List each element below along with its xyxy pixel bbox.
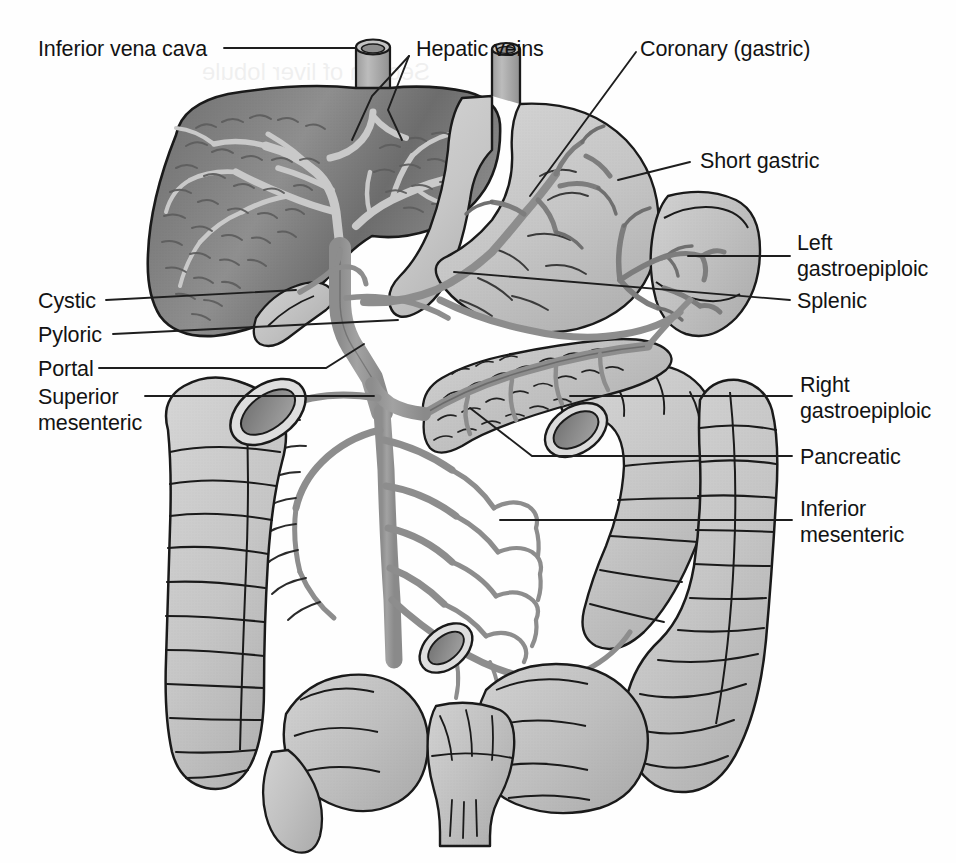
anatomy-figure: Section of liver lobule Hepatic portal v… xyxy=(0,0,956,863)
label-portal: Portal xyxy=(38,356,94,382)
rectum xyxy=(428,703,515,846)
portal-venous-system-illustration: Section of liver lobule Hepatic portal v… xyxy=(0,0,956,863)
label-inferior-mesenteric: Inferior mesenteric xyxy=(800,496,904,548)
label-left-gastroepiploic: Left gastroepiploic xyxy=(797,230,928,282)
label-short-gastric: Short gastric xyxy=(700,148,819,174)
label-cystic: Cystic xyxy=(38,288,96,314)
label-inferior-vena-cava: Inferior vena cava xyxy=(38,36,207,62)
label-pyloric: Pyloric xyxy=(38,322,102,348)
label-splenic: Splenic xyxy=(797,288,867,314)
label-hepatic-veins: Hepatic veins xyxy=(416,36,544,62)
label-right-gastroepiploic: Right gastroepiploic xyxy=(800,372,931,424)
leader-portal xyxy=(99,344,364,368)
label-pancreatic: Pancreatic xyxy=(800,444,901,470)
label-superior-mesenteric: Superior mesenteric xyxy=(38,384,142,436)
label-coronary-gastric: Coronary (gastric) xyxy=(640,36,810,62)
